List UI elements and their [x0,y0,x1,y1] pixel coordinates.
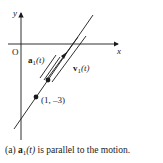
direction-arrowhead-icon [61,52,67,59]
point-1-neg3 [34,95,39,100]
origin-label: O [12,48,19,57]
point-label: (1, –3) [41,96,65,105]
vector-arg: (t) [36,55,45,65]
vector-arg: (t) [81,63,90,73]
caption-suffix: is parallel to the motion. [35,145,130,155]
velocity-vector-arrow [52,36,86,82]
diagram-canvas [0,0,163,163]
x-axis-label: x [117,47,121,56]
point-moving [46,78,51,83]
velocity-label: v1(t) [73,64,90,75]
y-axis-label: y [13,9,17,18]
caption: (a) a1(t) is parallel to the motion. [5,146,130,157]
caption-prefix: (a) [5,145,18,155]
acceleration-label: a1(t) [28,56,45,67]
caption-vector-arg: (t) [26,145,35,155]
